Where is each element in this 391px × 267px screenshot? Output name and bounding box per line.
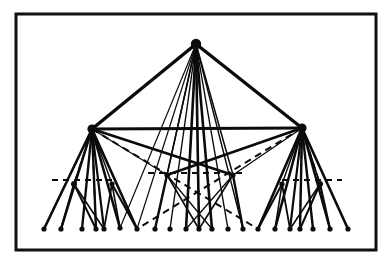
node-leaf-17 [287, 226, 292, 231]
node-leaf-04 [93, 226, 98, 231]
node-leaf-10 [183, 226, 188, 231]
node-leaf-09 [167, 226, 172, 231]
node-mid-left [71, 181, 77, 187]
network-diagram-canvas [0, 0, 391, 267]
node-leaf-13 [225, 226, 230, 231]
node-hub-right [297, 123, 306, 132]
node-leaf-20 [327, 226, 332, 231]
node-root [191, 39, 201, 49]
node-leaf-02 [58, 226, 63, 231]
figure-root [0, 0, 391, 267]
node-leaf-01 [41, 226, 46, 231]
node-leaf-05 [101, 226, 106, 231]
node-mid-center-right [230, 172, 235, 177]
node-leaf-15 [255, 226, 260, 231]
node-leaf-11 [196, 226, 201, 231]
node-leaf-03 [79, 226, 84, 231]
node-mid-center-left [164, 172, 169, 177]
node-leaf-18 [297, 226, 302, 231]
node-mid-left-right [109, 181, 114, 186]
node-leaf-12 [209, 226, 214, 231]
node-mid-right-left [279, 181, 284, 186]
node-mid-right [317, 181, 323, 187]
node-leaf-07 [134, 226, 139, 231]
node-leaf-14 [240, 226, 245, 231]
node-leaf-16 [272, 226, 277, 231]
node-leaf-21 [345, 226, 350, 231]
node-hub-left [87, 124, 96, 133]
node-leaf-06 [117, 225, 122, 230]
node-leaf-19 [310, 226, 315, 231]
node-leaf-08 [152, 226, 157, 231]
